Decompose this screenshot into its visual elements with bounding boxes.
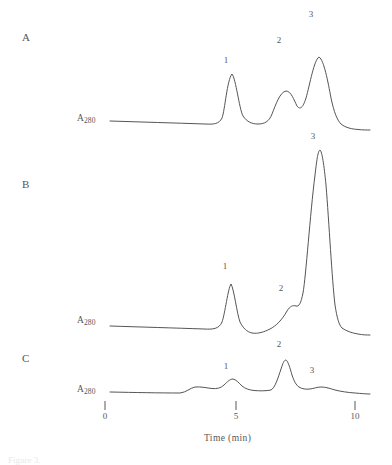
peak-label-b-1: 1 <box>218 261 232 271</box>
x-tick-label-0: 0 <box>96 411 114 421</box>
peak-label-b-3: 3 <box>306 131 320 141</box>
x-tick-label-5: 5 <box>227 411 245 421</box>
y-axis-label-subscript: 280 <box>84 116 96 125</box>
y-axis-label-panel-a: A280 <box>77 113 96 125</box>
y-axis-label-subscript: 280 <box>84 387 96 396</box>
chromatogram-traces <box>0 0 392 465</box>
panel-label-a: A <box>22 31 30 43</box>
y-axis-label-subscript: 280 <box>84 318 96 327</box>
trace-panel-a <box>110 57 370 130</box>
panel-label-b: B <box>22 178 30 190</box>
y-axis-label-panel-b: A280 <box>77 315 96 327</box>
y-axis-label-panel-c: A280 <box>77 384 96 396</box>
y-axis-label-main: A <box>77 384 84 394</box>
trace-panel-b <box>110 150 370 335</box>
y-axis-label-main: A <box>77 113 84 123</box>
peak-label-c-1: 1 <box>219 361 233 371</box>
panel-label-c: C <box>22 352 30 364</box>
peak-label-b-2: 2 <box>274 283 288 293</box>
peak-label-c-3: 3 <box>305 365 319 375</box>
y-axis-label-main: A <box>77 315 84 325</box>
peak-label-a-1: 1 <box>219 55 233 65</box>
peak-label-a-3: 3 <box>304 9 318 19</box>
figure-caption-partial: Figure 3. <box>8 455 258 465</box>
peak-label-a-2: 2 <box>272 35 286 45</box>
x-axis-title: Time (min) <box>204 433 251 443</box>
chromatogram-figure: A B C A280 A280 A280 1 2 3 1 2 3 1 2 3 0… <box>0 0 392 465</box>
peak-label-c-2: 2 <box>272 339 286 349</box>
x-tick-label-10: 10 <box>346 411 364 421</box>
trace-panel-c <box>110 360 370 394</box>
